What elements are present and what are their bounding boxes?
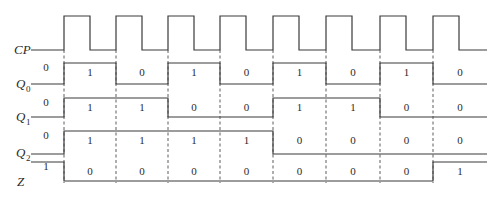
q1-label: Q 1: [16, 109, 31, 127]
signal-waveform-3: [31, 162, 487, 181]
state-value: 1: [457, 165, 463, 177]
state-value: 0: [350, 66, 356, 78]
state-value: 1: [297, 101, 303, 113]
q0-label: Q 0: [16, 76, 31, 94]
svg-text:Q: Q: [16, 145, 26, 160]
state-value: 0: [139, 165, 145, 177]
waveforms: [31, 16, 487, 181]
signal-waveform-0: [31, 63, 487, 84]
svg-text:1: 1: [26, 117, 31, 127]
state-values: 010101010011001100011110000100000001: [43, 61, 463, 177]
state-value: 1: [139, 101, 145, 113]
state-value: 0: [457, 66, 463, 78]
cp-waveform: [31, 16, 487, 50]
state-value: 1: [297, 66, 303, 78]
state-value: 0: [244, 101, 250, 113]
state-value: 0: [404, 165, 410, 177]
state-value: 1: [191, 66, 197, 78]
state-value: 0: [350, 165, 356, 177]
state-value: 1: [244, 134, 250, 146]
state-value: 1: [87, 134, 93, 146]
svg-text:Q: Q: [16, 76, 26, 91]
timing-diagram: CP Q 0 Q 1 Q 2 Z 01010101001100110001111…: [0, 0, 496, 202]
state-value: 1: [139, 134, 145, 146]
state-value: 0: [350, 134, 356, 146]
svg-text:0: 0: [26, 84, 31, 94]
state-value: 1: [87, 66, 93, 78]
state-value: 0: [191, 165, 197, 177]
svg-text:2: 2: [26, 153, 31, 163]
state-value: 0: [297, 165, 303, 177]
state-value: 0: [457, 101, 463, 113]
state-value: 0: [87, 165, 93, 177]
state-value: 0: [297, 134, 303, 146]
state-value: 1: [87, 101, 93, 113]
state-value: 0: [191, 101, 197, 113]
svg-text:Q: Q: [16, 109, 26, 124]
signal-waveform-1: [31, 98, 487, 117]
state-value: 0: [139, 66, 145, 78]
state-value: 0: [404, 101, 410, 113]
state-value: 1: [404, 66, 410, 78]
state-value: 1: [191, 134, 197, 146]
state-value: 0: [43, 129, 49, 141]
state-value: 0: [244, 66, 250, 78]
state-value: 0: [244, 165, 250, 177]
state-value: 0: [457, 134, 463, 146]
state-value: 1: [43, 160, 49, 172]
state-value: 1: [350, 101, 356, 113]
z-label: Z: [17, 174, 25, 189]
signal-waveform-2: [31, 131, 487, 154]
state-value: 0: [43, 61, 49, 73]
q2-label: Q 2: [16, 145, 31, 163]
cp-label: CP: [14, 42, 31, 57]
state-value: 0: [43, 96, 49, 108]
state-value: 0: [404, 134, 410, 146]
